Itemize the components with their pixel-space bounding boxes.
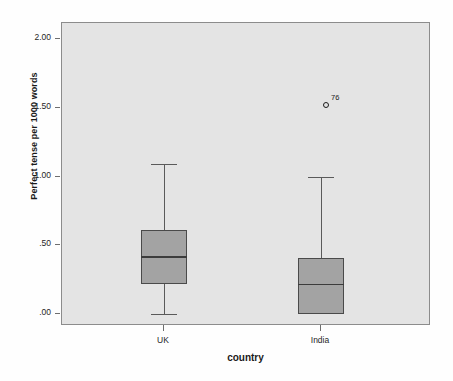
outlier-point	[323, 102, 329, 108]
median-line	[298, 284, 344, 286]
whisker-cap-upper	[151, 164, 177, 165]
whisker-cap-lower	[151, 314, 177, 315]
y-tick-label: 1.50	[34, 101, 51, 111]
outlier-label: 76	[331, 93, 339, 102]
y-tick-mark	[55, 244, 60, 245]
median-line	[141, 256, 187, 258]
whisker-upper	[321, 177, 322, 258]
y-tick-mark	[55, 38, 60, 39]
plot-area: 76	[61, 22, 430, 325]
whisker-upper	[164, 164, 165, 230]
y-tick-0: .00	[0, 313, 60, 314]
y-tick-label: 2.00	[34, 32, 51, 42]
plot-inner: 76	[62, 23, 429, 324]
y-tick-3: 1.50	[0, 107, 60, 108]
x-axis-title: country	[61, 352, 430, 363]
y-tick-2: 1.00	[0, 176, 60, 177]
y-tick-4: 2.00	[0, 38, 60, 39]
y-tick-label: 1.00	[34, 170, 51, 180]
x-tick-mark	[320, 325, 321, 331]
whisker-lower	[164, 284, 165, 314]
y-tick-label: .00	[39, 307, 51, 317]
y-tick-mark	[55, 107, 60, 108]
x-tick-label: India	[280, 335, 360, 345]
iqr-box	[298, 258, 344, 314]
y-axis-title: Perfect tense per 1000 words	[29, 36, 39, 236]
y-tick-mark	[55, 313, 60, 314]
x-tick-label: UK	[123, 335, 203, 345]
boxplot-chart: Perfect tense per 1000 words .00.501.001…	[0, 0, 453, 381]
y-tick-mark	[55, 176, 60, 177]
y-tick-1: .50	[0, 244, 60, 245]
x-tick-mark	[163, 325, 164, 331]
y-tick-label: .50	[39, 238, 51, 248]
whisker-cap-upper	[308, 177, 334, 178]
